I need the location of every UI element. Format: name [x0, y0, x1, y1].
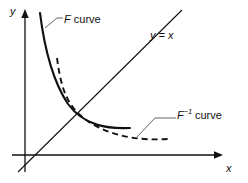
f-inverse-curve-leader-line [137, 118, 176, 137]
f-curve-path [40, 13, 130, 128]
figure-canvas: y x y = x F curve F−1 curve [0, 0, 248, 183]
f-inverse-curve-label: F−1 curve [177, 108, 222, 121]
x-axis-arrowhead [214, 151, 223, 158]
f-curve-label-word: curve [71, 13, 101, 25]
y-axis-label: y [10, 6, 16, 17]
identity-line-label: y = x [150, 30, 174, 41]
x-axis-group [12, 151, 223, 158]
f-inverse-curve-label-word: curve [192, 109, 222, 121]
f-curve-label: F curve [64, 14, 101, 25]
y-axis-group [21, 9, 28, 172]
x-axis-label: x [226, 163, 232, 174]
f-curve-label-symbol: F [64, 13, 71, 25]
diagram-svg [0, 0, 248, 183]
f-curve-leader-line [45, 18, 63, 28]
f-inverse-curve-label-symbol: F [177, 109, 184, 121]
y-axis-arrowhead [21, 9, 28, 18]
f-inverse-curve-label-superscript: −1 [184, 107, 192, 116]
